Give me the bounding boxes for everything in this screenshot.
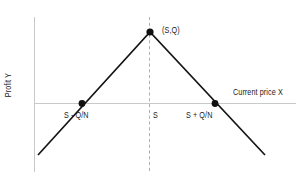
apex-point-label: (S,Q) xyxy=(162,27,180,35)
x-axis-label: Current price X xyxy=(233,89,283,97)
data-point-apex xyxy=(146,28,153,35)
profit-price-figure: Profit Y Current price X (S,Q) S - Q/N S… xyxy=(0,0,301,178)
data-point-right-breakeven xyxy=(212,100,219,107)
profit-curve xyxy=(38,32,265,155)
data-point-left-breakeven xyxy=(79,100,86,107)
tick-label-left-breakeven: S - Q/N xyxy=(64,112,89,120)
y-axis-label: Profit Y xyxy=(5,66,13,105)
tick-label-strike: S xyxy=(153,112,158,120)
tick-label-right-breakeven: S + Q/N xyxy=(186,112,212,120)
